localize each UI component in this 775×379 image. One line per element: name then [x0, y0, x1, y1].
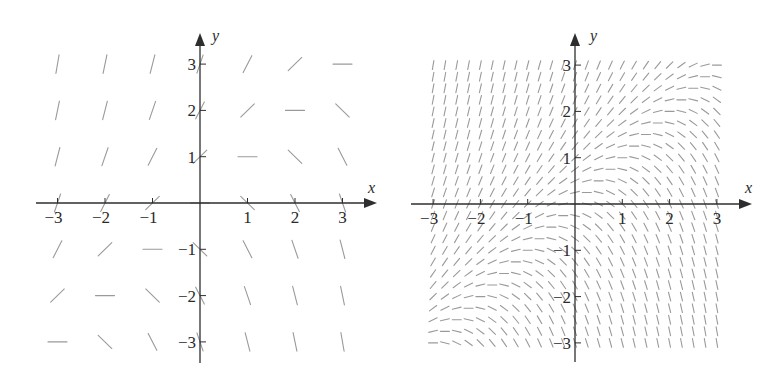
slope-segment: [490, 188, 494, 196]
slope-segment: [681, 338, 683, 347]
slope-segment: [491, 119, 494, 128]
slope-segment: [53, 241, 62, 258]
slope-segment: [691, 177, 695, 185]
slope-segment: [669, 327, 671, 336]
y-tick-label: 1: [188, 148, 197, 167]
slope-segment: [444, 107, 446, 116]
x-tick-label: 1: [618, 209, 627, 228]
slope-segment: [513, 189, 518, 196]
slope-segment: [644, 269, 647, 278]
slope-segment: [619, 96, 625, 103]
slope-segment: [526, 107, 529, 116]
slope-segment: [621, 339, 623, 348]
slope-segment: [538, 72, 541, 81]
slope-segment: [692, 292, 694, 301]
x-tick-label: −2: [92, 208, 110, 227]
slope-segment: [491, 165, 494, 173]
slope-segment: [467, 188, 470, 196]
slope-segment: [585, 327, 588, 336]
slope-segment: [619, 120, 626, 125]
slope-segment: [713, 86, 721, 90]
slope-segment: [692, 258, 694, 267]
slope-segment: [477, 340, 483, 346]
slope-segment: [491, 153, 494, 161]
slope-segment: [562, 84, 565, 92]
slope-segment: [465, 283, 473, 287]
slope-segment: [479, 72, 481, 81]
slope-segment: [479, 153, 482, 162]
slope-segment: [441, 294, 448, 299]
slope-segment: [677, 87, 686, 89]
slope-segment: [501, 212, 507, 219]
slope-segment: [645, 304, 647, 313]
slope-segment: [608, 84, 613, 92]
slope-segment: [245, 333, 250, 351]
slope-segment: [431, 258, 436, 266]
slope-segment: [535, 214, 543, 218]
slope-segment: [681, 327, 683, 336]
slope-segment: [503, 130, 506, 139]
slope-segment: [430, 293, 436, 299]
slope-segment: [704, 258, 706, 267]
slope-segment: [644, 223, 648, 231]
slope-segment: [465, 340, 472, 345]
slope-segment: [595, 224, 601, 230]
slope-segment: [293, 333, 297, 352]
slope-segment: [701, 64, 710, 66]
slope-segment: [609, 61, 613, 69]
slope-segment: [444, 95, 446, 104]
slope-segment: [620, 61, 624, 69]
slope-segment: [538, 107, 541, 115]
slope-segment: [667, 189, 672, 197]
slope-segment: [668, 258, 671, 267]
slope-segment: [536, 282, 542, 288]
slope-segment: [535, 260, 543, 264]
slope-segment: [466, 247, 472, 254]
slope-segment: [454, 258, 460, 265]
slope-segment: [478, 235, 484, 242]
slope-segment: [713, 97, 720, 102]
slope-segment: [668, 246, 671, 255]
slope-segment: [538, 339, 542, 347]
slope-segment: [560, 270, 566, 277]
slope-segment: [292, 240, 298, 258]
slope-segment: [633, 339, 635, 348]
slope-segment: [715, 188, 718, 196]
slope-segment: [632, 246, 636, 254]
slope-segment: [701, 87, 710, 89]
slope-segment: [704, 292, 706, 301]
slope-segment: [656, 223, 660, 231]
slope-segment: [621, 292, 624, 301]
slope-segment: [515, 96, 518, 105]
slope-segment: [561, 131, 566, 139]
slope-segment: [656, 258, 659, 267]
slope-segment: [452, 307, 461, 309]
slope-segment: [619, 190, 626, 195]
slope-segment: [606, 157, 615, 159]
slope-segment: [669, 338, 671, 347]
slope-segment: [689, 76, 698, 78]
slope-segment: [464, 296, 473, 298]
slope-segment: [444, 153, 446, 162]
slope-segment: [585, 96, 589, 104]
slope-segment: [491, 61, 493, 70]
slope-segment: [595, 213, 602, 218]
slope-segment: [597, 73, 601, 81]
slope-segment: [656, 246, 659, 254]
slope-segment: [597, 269, 601, 277]
slope-segment: [338, 148, 347, 165]
slope-segment: [526, 84, 529, 93]
slope-segment: [443, 235, 447, 243]
slope-segment: [630, 133, 639, 135]
y-tick-label: −1: [553, 241, 571, 260]
slope-segment: [524, 282, 531, 287]
slope-segment: [665, 99, 674, 101]
slope-segment: [701, 109, 708, 114]
slope-segment: [146, 289, 160, 302]
slope-segment: [702, 120, 708, 126]
slope-segment: [692, 223, 695, 232]
slope-segment: [621, 269, 624, 277]
slope-segment: [692, 269, 694, 278]
slope-segment: [620, 73, 625, 81]
slope-segment: [503, 107, 506, 116]
